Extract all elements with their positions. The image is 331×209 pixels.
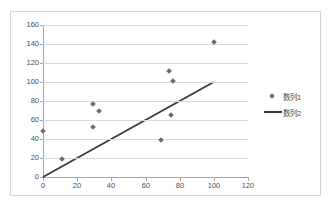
gridline-horizontal bbox=[43, 25, 248, 26]
y-axis-tick bbox=[40, 158, 43, 159]
legend-item-series1[interactable]: 数列1 bbox=[263, 88, 321, 104]
x-axis-tick-label: 40 bbox=[99, 182, 123, 190]
gridline-horizontal bbox=[43, 44, 248, 45]
y-axis-tick-label: 160 bbox=[13, 21, 39, 29]
y-axis-tick bbox=[40, 82, 43, 83]
gridline-horizontal bbox=[43, 82, 248, 83]
plot-area[interactable] bbox=[43, 25, 248, 177]
trendline-path bbox=[43, 82, 214, 177]
y-axis-labels: 020406080100120140160 bbox=[11, 12, 39, 197]
gridline-horizontal bbox=[43, 139, 248, 140]
legend-item-series2[interactable]: 数列2 bbox=[263, 104, 321, 120]
diamond-marker-icon bbox=[269, 93, 275, 99]
y-axis-tick bbox=[40, 101, 43, 102]
gridline-horizontal bbox=[43, 63, 248, 64]
y-axis-tick bbox=[40, 44, 43, 45]
y-axis-tick-label: 100 bbox=[13, 78, 39, 86]
y-axis-tick bbox=[40, 25, 43, 26]
x-axis-tick-label: 100 bbox=[202, 182, 226, 190]
gridline-horizontal bbox=[43, 101, 248, 102]
y-axis-tick-label: 20 bbox=[13, 154, 39, 162]
chart-frame[interactable]: 020406080100120140160 020406080100120 数列… bbox=[10, 11, 321, 196]
x-axis-tick-label: 60 bbox=[134, 182, 158, 190]
y-axis-tick-label: 140 bbox=[13, 40, 39, 48]
y-axis-tick-label: 40 bbox=[13, 135, 39, 143]
gridline-horizontal bbox=[43, 120, 248, 121]
x-axis-tick-label: 20 bbox=[65, 182, 89, 190]
y-axis-tick bbox=[40, 120, 43, 121]
gridline-horizontal bbox=[43, 158, 248, 159]
y-axis-tick bbox=[40, 63, 43, 64]
line-swatch-icon bbox=[264, 111, 282, 113]
legend-item-label: 数列1 bbox=[283, 91, 301, 102]
y-axis-tick-label: 120 bbox=[13, 59, 39, 67]
y-axis-tick-label: 60 bbox=[13, 116, 39, 124]
y-axis-tick-label: 0 bbox=[13, 173, 39, 181]
x-axis-tick-label: 0 bbox=[31, 182, 55, 190]
x-axis-tick-label: 120 bbox=[236, 182, 260, 190]
y-axis-tick-label: 80 bbox=[13, 97, 39, 105]
x-axis-tick-label: 80 bbox=[168, 182, 192, 190]
legend-item-label: 数列2 bbox=[283, 107, 301, 118]
y-axis-tick bbox=[40, 139, 43, 140]
chart-legend[interactable]: 数列1 数列2 bbox=[263, 88, 321, 120]
